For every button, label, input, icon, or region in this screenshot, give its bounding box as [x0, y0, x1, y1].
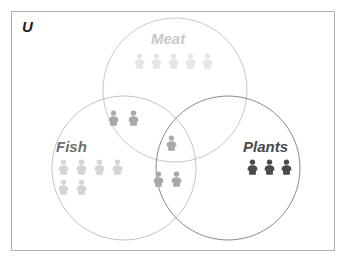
people-group-meat-only	[133, 53, 229, 69]
venn-diagram: U Meat Fish Plants	[0, 0, 346, 263]
person-icon	[165, 135, 178, 151]
person-icon	[152, 171, 165, 187]
person-icon	[75, 159, 88, 175]
set-label-meat: Meat	[151, 31, 185, 46]
person-icon	[167, 53, 180, 69]
person-icon	[201, 53, 214, 69]
person-icon	[263, 159, 276, 175]
universe-label: U	[22, 19, 33, 34]
people-group-fish-meat	[107, 110, 153, 126]
person-icon	[107, 110, 120, 126]
person-icon	[93, 159, 106, 175]
person-icon	[57, 159, 70, 175]
person-icon	[75, 179, 88, 195]
person-icon	[246, 159, 259, 175]
person-icon	[184, 53, 197, 69]
person-icon	[127, 110, 140, 126]
people-group-all-three	[165, 135, 185, 151]
people-group-fish-only	[57, 159, 125, 195]
person-icon	[133, 53, 146, 69]
set-label-fish: Fish	[56, 139, 87, 154]
person-icon	[170, 171, 183, 187]
person-icon	[280, 159, 293, 175]
person-icon	[57, 179, 70, 195]
person-icon	[150, 53, 163, 69]
people-group-fish-plants	[152, 171, 198, 187]
set-label-plants: Plants	[243, 139, 288, 154]
people-group-plants-only	[246, 159, 306, 175]
person-icon	[111, 159, 124, 175]
